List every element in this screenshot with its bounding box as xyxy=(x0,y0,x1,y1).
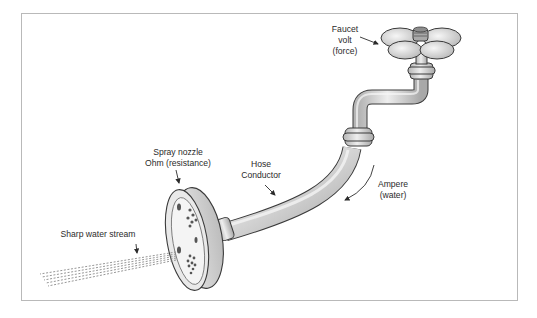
nozzle-arrow xyxy=(176,170,179,183)
stream-label-line1: Sharp water stream xyxy=(52,229,144,240)
nozzle-label-line1: Spray nozzle xyxy=(134,147,222,158)
faucet-label-line2: volt xyxy=(326,35,364,46)
ampere-label: Ampere (water) xyxy=(370,179,416,201)
ampere-label-line1: Ampere xyxy=(370,179,416,190)
water-stream xyxy=(40,252,176,286)
hose-label-line2: Conductor xyxy=(233,170,289,181)
pipe-coupling-lower xyxy=(343,128,374,146)
hose-arrow xyxy=(265,185,275,195)
stream-label: Sharp water stream xyxy=(52,229,144,240)
faucet-label-line1: Faucet xyxy=(326,24,364,35)
hose-label: Hose Conductor xyxy=(233,159,289,181)
nozzle-label: Spray nozzle Ohm (resistance) xyxy=(134,147,222,169)
spray-nozzle xyxy=(158,184,235,294)
faucet-pipe xyxy=(357,78,421,132)
ampere-label-line2: (water) xyxy=(370,190,416,201)
hose-label-line1: Hose xyxy=(233,159,289,170)
faucet-label-line3: (force) xyxy=(326,46,364,57)
faucet-label: Faucet volt (force) xyxy=(326,24,364,57)
nozzle-label-line2: Ohm (resistance) xyxy=(134,158,222,169)
stream-arrow xyxy=(136,244,137,253)
